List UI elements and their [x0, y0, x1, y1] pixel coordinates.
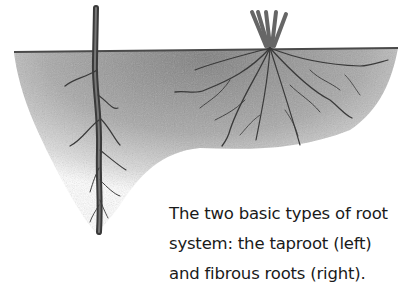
grass-stems — [252, 12, 286, 46]
caption-line-3: and fibrous roots (right). — [169, 259, 414, 289]
caption-line-2: system: the taproot (left) — [169, 229, 414, 259]
caption: The two basic types of root system: the … — [169, 199, 414, 289]
caption-line-1: The two basic types of root — [169, 199, 414, 229]
